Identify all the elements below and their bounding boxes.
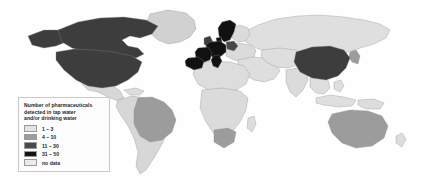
- legend-title-line-2: detected in tap water: [24, 109, 105, 116]
- legend-title-line-3: and/or drinking water: [24, 115, 105, 122]
- legend-swatch-no-data: [24, 159, 37, 165]
- legend-label-11-30: 11 – 30: [42, 143, 59, 149]
- legend-item-1-3: 1 – 3: [24, 125, 105, 133]
- legend-item-31-50: 31 – 50: [24, 150, 105, 158]
- legend-label-no-data: no data: [42, 160, 60, 166]
- legend-title: Number of pharmaceuticals detected in ta…: [24, 102, 105, 122]
- legend-swatch-31-50: [24, 151, 37, 157]
- legend-item-no-data: no data: [24, 159, 105, 167]
- legend-label-31-50: 31 – 50: [42, 151, 59, 157]
- legend-label-1-3: 1 – 3: [42, 126, 53, 132]
- legend-item-4-10: 4 – 10: [24, 133, 105, 141]
- legend-title-line-1: Number of pharmaceuticals: [24, 102, 105, 109]
- legend-label-4-10: 4 – 10: [42, 134, 56, 140]
- legend-swatch-11-30: [24, 142, 37, 148]
- legend-swatch-4-10: [24, 134, 37, 140]
- map-legend: Number of pharmaceuticals detected in ta…: [18, 97, 110, 172]
- world-map-figure: Number of pharmaceuticals detected in ta…: [0, 0, 432, 182]
- legend-swatch-1-3: [24, 125, 37, 131]
- legend-item-11-30: 11 – 30: [24, 142, 105, 150]
